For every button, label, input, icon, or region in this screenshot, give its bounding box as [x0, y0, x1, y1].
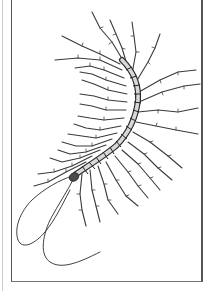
- centipede-body: [68, 60, 141, 183]
- centipede-illustration: [0, 0, 219, 291]
- legs-left: [34, 36, 127, 186]
- antennae: [17, 176, 100, 265]
